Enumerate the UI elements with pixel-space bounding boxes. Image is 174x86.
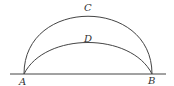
label-d: D bbox=[83, 33, 92, 44]
arc-c bbox=[24, 16, 152, 74]
label-c: C bbox=[84, 2, 92, 13]
arc-d bbox=[24, 43, 152, 75]
label-a: A bbox=[18, 76, 26, 86]
label-b: B bbox=[147, 75, 155, 86]
geometry-diagram: C D A B bbox=[0, 0, 174, 86]
